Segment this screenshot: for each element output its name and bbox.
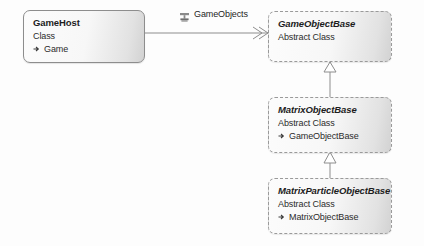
class-member-label: MatrixObjectBase (289, 211, 358, 223)
class-member-matrixobjectbase-base: GameObjectBase (278, 130, 382, 142)
class-box-matrixobjectbase[interactable]: MatrixObjectBase Abstract Class GameObje… (268, 97, 392, 153)
inherit-icon (278, 132, 286, 140)
class-member-matrixparticleobjectbase-base: MatrixObjectBase (278, 211, 382, 223)
class-member-label: GameObjectBase (289, 130, 359, 142)
association-label-text: GameObjects (194, 9, 248, 20)
association-label-gameobjects[interactable]: GameObjects (179, 9, 248, 20)
class-name-matrixparticleobjectbase: MatrixParticleObjectBase (278, 185, 382, 197)
class-kind-gamehost: Class (33, 30, 135, 42)
association-gameobjects-connector (145, 27, 268, 39)
class-box-gameobjectbase[interactable]: GameObjectBase Abstract Class (268, 11, 392, 62)
class-kind-gameobjectbase: Abstract Class (278, 31, 382, 43)
class-name-gamehost: GameHost (33, 17, 135, 29)
class-box-gamehost[interactable]: GameHost Class Game (23, 10, 145, 63)
class-member-label: Game (44, 43, 68, 55)
class-kind-matrixobjectbase: Abstract Class (278, 117, 382, 129)
class-kind-matrixparticleobjectbase: Abstract Class (278, 198, 382, 210)
class-name-matrixobjectbase: MatrixObjectBase (278, 104, 382, 116)
inherit-icon (278, 213, 286, 221)
class-name-gameobjectbase: GameObjectBase (278, 18, 382, 30)
inheritance-matrixobjectbase-connector (324, 62, 336, 97)
inheritance-matrixparticleobjectbase-connector (324, 152, 336, 178)
property-icon (33, 45, 41, 53)
uml-diagram-canvas: GameHost Class Game GameObjects GameObje… (0, 0, 424, 246)
class-member-gamehost-game: Game (33, 43, 135, 55)
class-box-matrixparticleobjectbase[interactable]: MatrixParticleObjectBase Abstract Class … (268, 178, 392, 234)
collection-association-icon (179, 9, 190, 20)
